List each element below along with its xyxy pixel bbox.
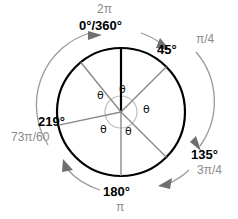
label-180-degree: 180° <box>103 185 130 198</box>
label-top-degree: 0°/360° <box>79 19 122 32</box>
theta-label: θ <box>100 124 107 135</box>
label-45-degree: 45° <box>157 43 177 56</box>
label-180-radian: π <box>116 201 124 213</box>
label-219-degree: 219° <box>38 115 65 128</box>
theta-label: θ <box>119 84 126 95</box>
sweep-arrows <box>36 31 214 190</box>
label-top-radian: 2π <box>97 3 112 15</box>
theta-label: θ <box>125 126 132 137</box>
label-219-radian: 73π/60 <box>11 131 49 143</box>
sweep-arc-right <box>196 52 214 146</box>
radius-219deg-ray <box>59 112 121 125</box>
label-45-radian: π/4 <box>196 33 214 45</box>
label-135-degree: 135° <box>191 148 218 161</box>
sweep-arrow-head-219 <box>62 159 73 172</box>
theta-label: θ <box>97 90 104 101</box>
theta-label: θ <box>143 104 150 115</box>
radius-219deg <box>81 62 121 112</box>
circle-diagram: 2π 0°/360° 45° π/4 135° 3π/4 180° π 219°… <box>0 0 238 219</box>
label-135-radian: 3π/4 <box>197 164 222 176</box>
sweep-arrow-head-180 <box>158 178 172 189</box>
